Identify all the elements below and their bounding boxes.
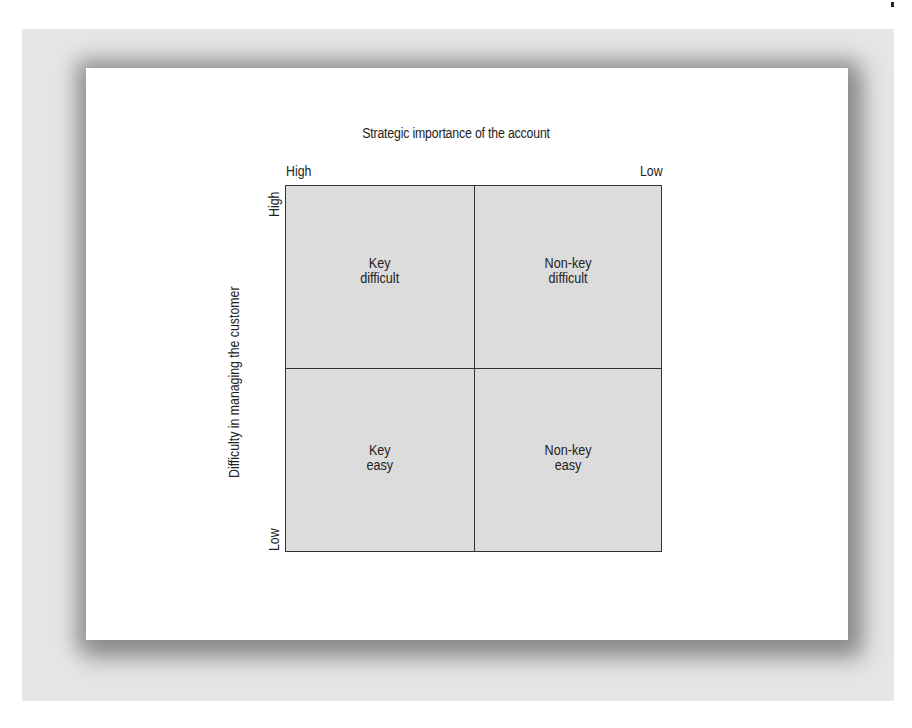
quadrant-key-easy: Key easy xyxy=(286,369,475,551)
quadrant-nonkey-easy: Non-key easy xyxy=(475,369,661,551)
y-axis-title: Difficulty in managing the customer xyxy=(226,286,242,478)
quadrant-label-line2: easy xyxy=(367,458,394,473)
quadrant-label-line2: easy xyxy=(545,458,592,473)
quadrant-matrix: Key difficult Non-key difficult Key easy… xyxy=(285,185,662,552)
y-axis-high-label: High xyxy=(266,192,282,217)
x-axis-low-label: Low xyxy=(640,163,663,179)
x-axis-high-label: High xyxy=(286,163,311,179)
quadrant-label-line1: Non-key xyxy=(545,256,592,271)
quadrant-nonkey-difficult: Non-key difficult xyxy=(475,186,661,369)
quadrant-label-line1: Non-key xyxy=(545,443,592,458)
y-axis-low-label: Low xyxy=(266,528,282,551)
quadrant-label-line1: Key xyxy=(360,256,399,271)
x-axis-title: Strategic importance of the account xyxy=(55,125,858,141)
page-corner-mark xyxy=(891,2,894,7)
quadrant-label-line2: difficult xyxy=(360,271,399,286)
quadrant-label-line2: difficult xyxy=(545,271,592,286)
quadrant-key-difficult: Key difficult xyxy=(286,186,475,369)
quadrant-label-line1: Key xyxy=(367,443,394,458)
